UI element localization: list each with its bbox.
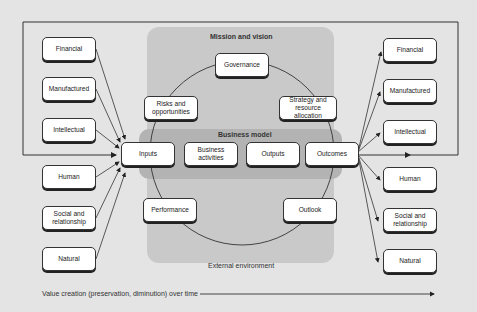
timeline-label: Value creation (preservation, diminution… <box>42 290 198 297</box>
output-capital-human: Human <box>383 167 437 191</box>
outcomes-box: Outcomes <box>305 142 359 166</box>
output-capital-financial: Financial <box>383 38 437 62</box>
input-capital-natural: Natural <box>42 247 96 271</box>
input-capital-intellectual: Intellectual <box>42 118 96 142</box>
input-capital-financial: Financial <box>42 37 96 61</box>
output-capital-social-relationship: Social and relationship <box>383 208 437 232</box>
risks-opportunities-box: Risks and opportunities <box>144 96 198 120</box>
performance-box: Performance <box>143 198 197 222</box>
outlook-box: Outlook <box>283 198 337 222</box>
external-environment-label: External environment <box>208 262 274 269</box>
input-capital-manufactured: Manufactured <box>42 77 96 101</box>
business-activities-box: Business activities <box>184 142 238 166</box>
business-model-label: Business model <box>218 131 272 138</box>
mission-vision-label: Mission and vision <box>210 33 273 40</box>
input-capital-social-relationship: Social and relationship <box>42 206 96 230</box>
output-capital-natural: Natural <box>383 249 437 273</box>
value-creation-diagram: Mission and vision Business model Extern… <box>0 0 477 312</box>
strategy-resource-box: Strategy and resource allocation <box>279 96 337 120</box>
output-capital-intellectual: Intellectual <box>383 120 437 144</box>
output-capital-manufactured: Manufactured <box>383 79 437 103</box>
outputs-box: Outputs <box>246 142 300 166</box>
inputs-box: Inputs <box>121 142 175 166</box>
input-capital-human: Human <box>42 165 96 189</box>
governance-box: Governance <box>215 53 269 77</box>
